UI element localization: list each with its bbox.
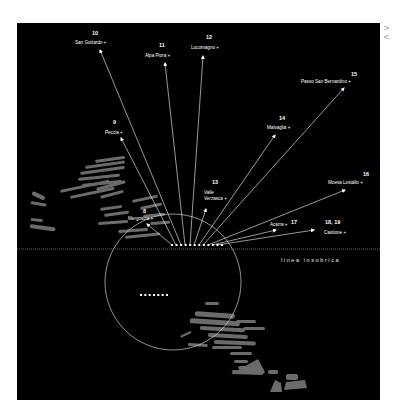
origin-dot: [171, 244, 173, 246]
site-number: 17: [291, 219, 297, 225]
site-name: Malvaglia +: [267, 125, 291, 130]
lower-dot: [153, 294, 155, 296]
lower-dot: [144, 294, 146, 296]
site-name: Peccia +: [105, 130, 123, 135]
lower-dot: [140, 294, 142, 296]
site-name: Lucomagno +: [191, 45, 219, 50]
lower-dot: [157, 294, 159, 296]
site-name: Mergoscia +: [128, 216, 153, 221]
origin-dot: [185, 244, 187, 246]
site-label: 16Moesa Lostallo +: [328, 171, 369, 185]
site-label: 13ValleVerzasca +: [204, 179, 227, 201]
terrain-layer: [29, 156, 307, 392]
site-number: 8: [143, 208, 146, 214]
site-name: Passo San Bernardino +: [301, 79, 351, 84]
nav-arrows-button[interactable]: > <: [383, 24, 395, 42]
site-label: 18, 19Castione +: [324, 219, 346, 235]
site-name: Moesa Lostallo +: [328, 180, 363, 185]
site-number: 18, 19: [325, 219, 340, 225]
site-name: Acarra +: [270, 222, 288, 227]
lower-dot: [149, 294, 151, 296]
origin-dot: [216, 244, 218, 246]
site-label: 17Acarra +: [270, 219, 297, 227]
origin-dot: [207, 244, 209, 246]
site-ray-16: [208, 190, 345, 245]
site-number: 10: [92, 30, 98, 36]
insubric-line-diagram: linea insubrica 8Mergoscia +9Peccia +10S…: [0, 0, 395, 415]
site-number: 12: [206, 34, 212, 40]
site-name: Valle: [204, 190, 214, 195]
site-number: 9: [113, 119, 116, 125]
origin-dot: [180, 244, 182, 246]
origin-dot: [189, 244, 191, 246]
site-ray-9: [121, 138, 176, 245]
origin-dot: [221, 244, 223, 246]
site-name: Castione +: [324, 230, 346, 235]
site-label: 14Malvaglia +: [267, 115, 291, 130]
origin-dot: [194, 244, 196, 246]
site-label: 12Lucomagno +: [191, 34, 219, 50]
site-ray-12: [190, 56, 203, 245]
site-label: 9Peccia +: [105, 119, 123, 135]
site-number: 11: [159, 42, 165, 48]
origin-dot: [198, 244, 200, 246]
site-number: 13: [212, 179, 218, 185]
site-number: 14: [279, 115, 286, 121]
site-label: 10San Gottardo +: [75, 30, 107, 45]
site-number: 16: [363, 171, 369, 177]
site-name: Alpa Piora +: [145, 53, 170, 58]
origin-dot: [212, 244, 214, 246]
site-ray-11: [165, 63, 185, 245]
origin-dot: [176, 244, 178, 246]
site-label: 11Alpa Piora +: [145, 42, 170, 58]
site-labels: 8Mergoscia +9Peccia +10San Gottardo +11A…: [75, 30, 369, 235]
lower-dot: [166, 294, 168, 296]
site-name: San Gottardo +: [75, 40, 107, 45]
origin-dots: [140, 244, 223, 296]
site-ray-13: [194, 209, 206, 245]
site-name: Verzasca +: [204, 196, 227, 201]
origin-dot: [203, 244, 205, 246]
lower-dot: [162, 294, 164, 296]
site-number: 15: [351, 71, 357, 77]
insubric-line-label: linea insubrica: [281, 257, 340, 263]
site-label: 15Passo San Bernardino +: [301, 71, 357, 84]
terrain-south: [180, 302, 307, 392]
